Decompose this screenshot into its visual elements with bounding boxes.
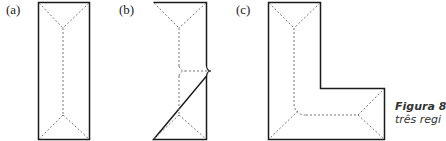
figure-caption: Figura 8 três regi [395,100,446,126]
caption-text: três regi [395,113,446,126]
caption-title: Figura 8 [395,100,446,113]
panel-c-diagram [269,3,385,140]
panel-b-diagram [154,3,212,140]
panel-a-diagram [39,3,90,140]
